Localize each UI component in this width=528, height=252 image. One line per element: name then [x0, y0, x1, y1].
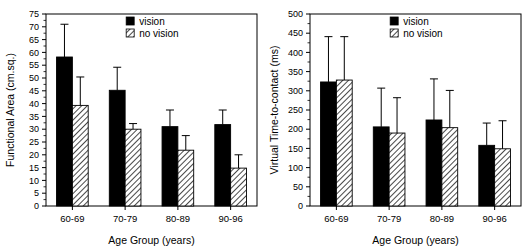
bar-vision-70-79 — [373, 127, 389, 206]
bar-vision-90-96 — [215, 125, 231, 206]
y-tick-label: 25 — [29, 137, 39, 147]
x-tick-label-60-69: 60-69 — [324, 213, 348, 224]
x-tick-label-80-89: 80-89 — [430, 213, 454, 224]
bar-no-vision-80-89 — [178, 150, 194, 206]
y-tick-label: 10 — [29, 176, 39, 186]
y-tick-label: 35 — [29, 112, 39, 122]
bar-vision-90-96 — [479, 145, 495, 206]
y-tick-label: 200 — [288, 124, 303, 134]
y-tick-label: 400 — [288, 48, 303, 58]
left-panel: 051015202530354045505560657075Functional… — [0, 0, 264, 252]
y-tick-label: 15 — [29, 163, 39, 173]
bar-no-vision-60-69 — [336, 80, 352, 206]
x-tick-label-90-96: 90-96 — [482, 213, 506, 224]
bar-no-vision-70-79 — [389, 133, 405, 206]
y-tick-label: 75 — [29, 9, 39, 19]
y-tick-label: 50 — [293, 182, 303, 192]
bar-no-vision-80-89 — [442, 128, 458, 206]
figure-container: 051015202530354045505560657075Functional… — [0, 0, 528, 252]
y-tick-label: 250 — [288, 105, 303, 115]
bar-no-vision-90-96 — [495, 149, 511, 206]
y-tick-label: 100 — [288, 163, 303, 173]
bar-vision-70-79 — [109, 90, 125, 206]
y-tick-label: 350 — [288, 67, 303, 77]
y-tick-label: 0 — [34, 201, 39, 211]
legend-label-vision: vision — [403, 16, 429, 27]
legend-label-no-vision: no vision — [403, 28, 442, 39]
y-tick-label: 55 — [29, 60, 39, 70]
y-tick-label: 150 — [288, 144, 303, 154]
right-panel: 050100150200250300350400450500Virtual Ti… — [264, 0, 528, 252]
right-panel-svg: 050100150200250300350400450500Virtual Ti… — [264, 0, 528, 252]
bar-no-vision-90-96 — [231, 168, 247, 206]
y-tick-label: 450 — [288, 28, 303, 38]
bar-vision-60-69 — [57, 57, 73, 206]
legend-swatch-no-vision — [126, 29, 134, 37]
y-tick-label: 60 — [29, 48, 39, 58]
y-tick-label: 5 — [34, 188, 39, 198]
legend-swatch-vision — [126, 17, 134, 25]
y-tick-label: 65 — [29, 35, 39, 45]
legend-swatch-vision — [390, 17, 398, 25]
x-tick-label-80-89: 80-89 — [166, 213, 190, 224]
bar-vision-80-89 — [426, 120, 442, 206]
legend-swatch-no-vision — [390, 29, 398, 37]
x-axis-title: Age Group (years) — [108, 234, 194, 246]
legend-label-vision: vision — [139, 16, 165, 27]
y-tick-label: 50 — [29, 73, 39, 83]
bar-no-vision-70-79 — [125, 129, 141, 206]
y-tick-label: 40 — [29, 99, 39, 109]
bar-no-vision-60-69 — [72, 105, 88, 206]
y-tick-label: 0 — [298, 201, 303, 211]
x-tick-label-70-79: 70-79 — [377, 213, 401, 224]
y-tick-label: 45 — [29, 86, 39, 96]
y-tick-label: 30 — [29, 124, 39, 134]
legend-label-no-vision: no vision — [139, 28, 178, 39]
y-tick-label: 300 — [288, 86, 303, 96]
bar-vision-60-69 — [321, 82, 337, 206]
bar-vision-80-89 — [162, 127, 178, 206]
x-tick-label-70-79: 70-79 — [113, 213, 137, 224]
y-tick-label: 70 — [29, 22, 39, 32]
x-axis-title: Age Group (years) — [372, 234, 458, 246]
x-tick-label-60-69: 60-69 — [60, 213, 84, 224]
y-tick-label: 500 — [288, 9, 303, 19]
x-tick-label-90-96: 90-96 — [218, 213, 242, 224]
y-axis-title: Virtual Time-to-contact (ms) — [268, 46, 280, 175]
y-tick-label: 20 — [29, 150, 39, 160]
left-panel-svg: 051015202530354045505560657075Functional… — [0, 0, 264, 252]
y-axis-title: Functional Area (cm.sq.) — [4, 53, 16, 167]
